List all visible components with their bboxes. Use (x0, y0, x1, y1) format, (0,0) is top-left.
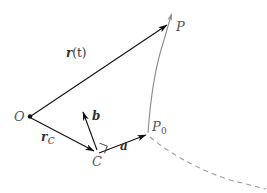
label-vector-r-of-t: r(t) (66, 47, 87, 59)
label-point-P: P (176, 20, 185, 33)
label-vector-r-c-subscript: C (48, 136, 55, 146)
trajectory-curve-dashed (150, 137, 266, 189)
label-point-P-text: P (176, 19, 185, 34)
label-point-C: C (92, 155, 102, 168)
label-vector-a: a (120, 140, 128, 152)
label-vector-b: b (92, 110, 100, 122)
vector-r-of-t-arrow (31, 25, 167, 116)
label-point-O: O (14, 110, 25, 123)
label-point-O-text: O (14, 109, 25, 124)
vector-diagram: O C P0 P r(t) rC a b (0, 0, 267, 193)
origin-point-dot (28, 114, 32, 118)
label-point-P0-subscript: 0 (161, 126, 167, 136)
label-point-P0: P0 (152, 120, 167, 136)
diagram-canvas (0, 0, 267, 193)
label-vector-b-symbol: b (92, 109, 100, 123)
trajectory-curve-solid (148, 14, 172, 133)
label-vector-a-symbol: a (120, 139, 128, 153)
label-vector-r-c-symbol: r (41, 130, 47, 144)
label-point-C-text: C (92, 154, 102, 169)
label-point-P0-text: P (152, 119, 161, 134)
label-vector-r-of-t-arg: (t) (72, 46, 86, 60)
label-vector-r-c: rC (41, 131, 55, 146)
